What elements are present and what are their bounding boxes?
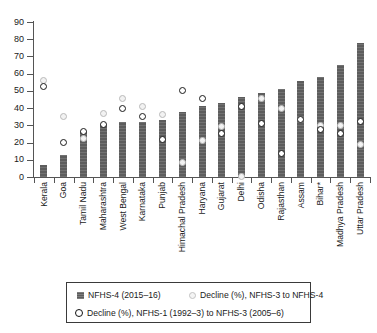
x-tick-label: Tamil Nadu — [79, 182, 88, 225]
marker-decline-nfhs3-nfhs4 — [258, 95, 265, 102]
x-tick-label: Rajasthan — [277, 182, 286, 221]
marker-decline-nfhs3-nfhs4 — [80, 135, 87, 142]
chart-column — [60, 22, 67, 177]
bar-nfhs4 — [60, 155, 67, 177]
bar-nfhs4 — [218, 103, 225, 177]
marker-decline-nfhs1-nfhs3 — [278, 150, 285, 157]
marker-decline-nfhs1-nfhs3 — [119, 105, 126, 112]
x-tick-label: Karnataka — [138, 182, 147, 221]
y-tick — [27, 177, 33, 178]
chart-column — [297, 22, 304, 177]
marker-decline-nfhs3-nfhs4 — [337, 122, 344, 129]
y-tick-label: 0 — [0, 173, 24, 182]
x-tick-label: Kerala — [40, 182, 49, 207]
marker-decline-nfhs1-nfhs3 — [80, 128, 87, 135]
marker-decline-nfhs1-nfhs3 — [40, 83, 47, 90]
chart-column — [40, 22, 47, 177]
bar-nfhs4 — [179, 112, 186, 177]
x-tick-label: West Bengal — [119, 182, 128, 231]
chart-column — [337, 22, 344, 177]
y-tick — [27, 108, 33, 109]
chart-column — [139, 22, 146, 177]
y-tick — [27, 143, 33, 144]
open-circle-icon — [75, 309, 83, 317]
bar-nfhs4 — [357, 43, 364, 177]
marker-decline-nfhs1-nfhs3 — [218, 130, 225, 137]
y-tick — [27, 56, 33, 57]
bar-nfhs4 — [297, 81, 304, 177]
x-tick-label: Uttar Pradesh — [356, 182, 365, 235]
x-tick-label: Punjab — [158, 182, 167, 209]
x-tick-label: Goa — [59, 182, 68, 198]
legend-label: NFHS-4 (2015–16) — [88, 291, 161, 300]
marker-decline-nfhs3-nfhs4 — [119, 95, 126, 102]
chart-column — [100, 22, 107, 177]
marker-decline-nfhs3-nfhs4 — [218, 123, 225, 130]
chart-column — [199, 22, 206, 177]
y-tick-label: 10 — [0, 155, 24, 164]
y-tick-label: 50 — [0, 86, 24, 95]
y-tick-label: 30 — [0, 121, 24, 130]
marker-decline-nfhs1-nfhs3 — [139, 113, 146, 120]
legend-label: Decline (%), NFHS-1 (1992–3) to NFHS-3 (… — [87, 309, 284, 318]
x-tick-label: Odisha — [257, 182, 266, 209]
marker-decline-nfhs3-nfhs4 — [238, 173, 245, 180]
marker-decline-nfhs3-nfhs4 — [357, 141, 364, 148]
y-tick-label: 80 — [0, 35, 24, 44]
marker-decline-nfhs1-nfhs3 — [159, 136, 166, 143]
marker-decline-nfhs1-nfhs3 — [100, 121, 107, 128]
x-tick-label: Haryana — [198, 182, 207, 214]
marker-decline-nfhs3-nfhs4 — [159, 111, 166, 118]
marker-decline-nfhs1-nfhs3 — [238, 103, 245, 110]
y-tick — [27, 39, 33, 40]
bar-nfhs4 — [278, 89, 285, 177]
y-tick — [27, 74, 33, 75]
x-tick-label: Bihar* — [316, 182, 325, 205]
chart-column — [218, 22, 225, 177]
marker-decline-nfhs3-nfhs4 — [100, 110, 107, 117]
y-tick-label: 60 — [0, 69, 24, 78]
y-tick — [27, 125, 33, 126]
legend-label: Decline (%), NFHS-3 to NFHS-4 — [200, 291, 323, 300]
marker-decline-nfhs1-nfhs3 — [60, 139, 67, 146]
chart-column — [258, 22, 265, 177]
y-tick-label: 90 — [0, 18, 24, 27]
y-tick — [27, 22, 33, 23]
y-tick — [27, 160, 33, 161]
marker-decline-nfhs1-nfhs3 — [179, 87, 186, 94]
x-tick-label: Gujarat — [217, 182, 226, 210]
x-tick-label: Madhya Pradesh — [336, 182, 345, 247]
chart-column — [159, 22, 166, 177]
chart-column — [80, 22, 87, 177]
legend-item-decline-nfhs3-nfhs4: Decline (%), NFHS-3 to NFHS-4 — [189, 286, 323, 304]
x-tick-label: Delhi — [237, 182, 246, 202]
chart-legend: NFHS-4 (2015–16) Decline (%), NFHS-3 to … — [66, 282, 311, 323]
plot-area — [34, 22, 370, 177]
chart-column — [357, 22, 364, 177]
y-tick-label: 40 — [0, 104, 24, 113]
bar-nfhs4 — [40, 165, 47, 177]
chart-column — [179, 22, 186, 177]
bar-nfhs4 — [100, 124, 107, 177]
x-axis-line — [33, 177, 371, 178]
light-circle-icon — [189, 292, 196, 299]
bar-nfhs4 — [139, 122, 146, 177]
y-tick-label: 20 — [0, 138, 24, 147]
chart-column — [317, 22, 324, 177]
legend-item-decline-nfhs1-nfhs3: Decline (%), NFHS-1 (1992–3) to NFHS-3 (… — [75, 304, 284, 322]
x-tick — [370, 178, 371, 183]
legend-item-nfhs4: NFHS-4 (2015–16) — [77, 286, 161, 304]
chart-column — [278, 22, 285, 177]
filled-square-icon — [77, 292, 84, 299]
bar-nfhs4 — [159, 120, 166, 177]
marker-decline-nfhs1-nfhs3 — [199, 95, 206, 102]
x-tick-label: Himachal Pradesh — [178, 182, 187, 252]
marker-decline-nfhs1-nfhs3 — [258, 120, 265, 127]
y-tick — [27, 91, 33, 92]
marker-decline-nfhs3-nfhs4 — [199, 137, 206, 144]
chart-column — [119, 22, 126, 177]
marker-decline-nfhs3-nfhs4 — [60, 113, 67, 120]
y-tick-label: 70 — [0, 52, 24, 61]
marker-decline-nfhs3-nfhs4 — [179, 159, 186, 166]
x-tick-label: Assam — [297, 182, 306, 208]
